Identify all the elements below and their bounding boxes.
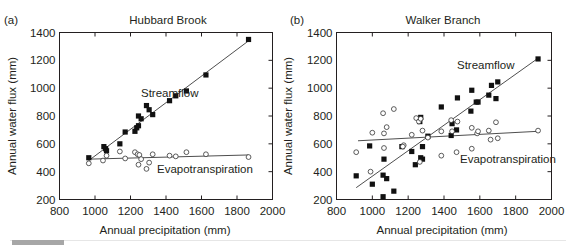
evapotranspiration-point: [370, 130, 375, 135]
y-tick-label: 800: [313, 110, 332, 122]
streamflow-point: [203, 72, 208, 77]
x-tick-label: 2000: [539, 205, 565, 217]
streamflow-point: [469, 88, 474, 93]
evapotranspiration-point: [391, 107, 396, 112]
x-axis-a: 800100012001400160018002000: [50, 33, 285, 217]
streamflow-point: [104, 148, 109, 153]
fit-line: [356, 58, 538, 187]
streamflow-point: [380, 194, 385, 199]
evapotranspiration-point: [104, 153, 109, 158]
figure-canvas: (a) Hubbard Brook 8001000120014001600180…: [0, 0, 568, 246]
evapotranspiration-point: [368, 169, 373, 174]
evapotranspiration-point: [400, 144, 405, 149]
streamflow-label-a: Streamflow: [141, 87, 199, 99]
x-tick-label: 2000: [260, 205, 286, 217]
streamflow-point: [86, 155, 91, 160]
x-tick-label: 1200: [118, 205, 144, 217]
streamflow-point: [147, 107, 152, 112]
streamflow-label-b: Streamflow: [457, 59, 515, 71]
y-axis-b: 200400600800100012001400: [307, 27, 552, 206]
evapotranspiration-point: [454, 150, 459, 155]
evapotranspiration-point: [123, 156, 128, 161]
evapotranspiration-point: [486, 128, 491, 133]
evapotranspiration-point: [384, 125, 389, 130]
evapotranspiration-point: [476, 129, 481, 134]
evapotranspiration-point: [439, 129, 444, 134]
panel-title-b: Walker Branch: [406, 14, 481, 26]
evapotranspiration-point: [173, 154, 178, 159]
evapotranspiration-point: [469, 125, 474, 130]
streamflow-point: [136, 123, 141, 128]
streamflow-point: [455, 95, 460, 100]
evapotranspiration-point: [101, 158, 106, 163]
streamflow-point: [468, 109, 473, 114]
y-tick-label: 1200: [307, 54, 333, 66]
evapotranspiration-point: [382, 131, 387, 136]
evapotranspiration-label-a: Evapotranspiration: [157, 163, 253, 175]
caption-divider: [10, 240, 566, 241]
streamflow-point: [139, 116, 144, 121]
evapotranspiration-point: [417, 160, 422, 165]
y-tick-label: 200: [36, 194, 55, 206]
x-tick-label: 1400: [153, 205, 179, 217]
evapotranspiration-point: [418, 116, 423, 121]
evapotranspiration-label-b: Evapotranspiration: [460, 153, 556, 165]
y-tick-label: 600: [313, 138, 332, 150]
y-tick-label: 1400: [307, 27, 333, 39]
x-axis-title-b: Annual precipitation (mm): [376, 224, 507, 236]
x-tick-label: 1600: [189, 205, 215, 217]
streamflow-point: [493, 96, 498, 101]
evapotranspiration-point: [494, 120, 499, 125]
caption-marker: [12, 240, 64, 245]
y-tick-label: 200: [313, 194, 332, 206]
evapotranspiration-point: [86, 161, 91, 166]
y-tick-label: 1000: [30, 82, 56, 94]
plot-frame-b: [337, 33, 552, 200]
evapotranspiration-point: [184, 150, 189, 155]
streamflow-point: [489, 83, 494, 88]
plot-area-b: [354, 56, 541, 199]
evapotranspiration-point: [381, 111, 386, 116]
y-tick-label: 1000: [307, 82, 333, 94]
y-tick-label: 400: [313, 166, 332, 178]
evapotranspiration-point: [469, 146, 474, 151]
panel-letter-a: (a): [4, 14, 18, 26]
evapotranspiration-point: [450, 129, 455, 134]
panel-title-a: Hubbard Brook: [129, 14, 207, 26]
streamflow-point: [381, 157, 386, 162]
evapotranspiration-point: [204, 152, 209, 157]
streamflow-point: [367, 143, 372, 148]
streamflow-point: [354, 173, 359, 178]
evapotranspiration-point: [139, 157, 144, 162]
streamflow-point: [475, 99, 480, 104]
panel-letter-b: (b): [290, 14, 304, 26]
streamflow-point: [413, 162, 418, 167]
x-tick-label: 1000: [82, 205, 108, 217]
y-axis-title-a: Annual water flux (mm): [6, 57, 18, 175]
x-tick-label: 1600: [467, 205, 493, 217]
streamflow-point: [495, 79, 500, 84]
evapotranspiration-point: [449, 118, 454, 123]
streamflow-point: [117, 141, 122, 146]
evapotranspiration-point: [150, 152, 155, 157]
streamflow-point: [391, 189, 396, 194]
streamflow-point: [150, 112, 155, 117]
x-tick-label: 1800: [503, 205, 529, 217]
plot-area-a: [86, 37, 251, 171]
streamflow-point: [409, 149, 414, 154]
panel-hubbard-brook: (a) Hubbard Brook 8001000120014001600180…: [4, 14, 285, 236]
evapotranspiration-point: [409, 132, 414, 137]
y-tick-label: 800: [36, 110, 55, 122]
evapotranspiration-point: [420, 128, 425, 133]
x-tick-label: 1800: [224, 205, 250, 217]
evapotranspiration-point: [246, 155, 251, 160]
streamflow-point: [535, 56, 540, 61]
evapotranspiration-point: [136, 162, 141, 167]
evapotranspiration-point: [144, 166, 149, 171]
evapotranspiration-point: [425, 135, 430, 140]
evapotranspiration-point: [455, 119, 460, 124]
evapotranspiration-point: [117, 149, 122, 154]
x-tick-label: 1200: [395, 205, 421, 217]
y-tick-label: 1200: [30, 54, 56, 66]
streamflow-point: [123, 129, 128, 134]
